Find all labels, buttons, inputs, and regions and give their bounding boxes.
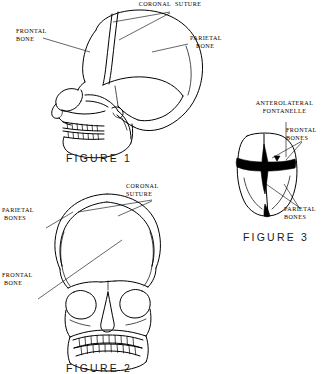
figure-2-label-coronal-suture: CORONAL SUTURE bbox=[126, 183, 182, 198]
figure-3-label-anterolateral-fontanelle: ANTEROLATERAL FONTANELLE bbox=[242, 100, 327, 115]
figure-3-label-frontal-bones: FRONTAL BONES bbox=[286, 127, 327, 142]
figure-1-label-frontal-bone: FRONTAL BONE bbox=[16, 28, 66, 43]
figure-3-caption: FIGURE 3 bbox=[243, 231, 309, 243]
figure-1-label-parietal-bone: PARIETAL BONE bbox=[190, 35, 246, 50]
figure-2-caption: FIGURE 2 bbox=[66, 362, 132, 374]
figure-2-label-frontal-bone: FRONTAL BONE bbox=[2, 272, 54, 287]
figure-1-label-coronal-suture: CORONAL SUTURE bbox=[122, 1, 218, 9]
figure-3-label-parietal-bones: PARIETAL BONES bbox=[284, 206, 327, 221]
figure-2-label-parietal-bones: PARIETAL BONES bbox=[2, 207, 54, 222]
figure-1-caption: FIGURE 1 bbox=[66, 152, 132, 164]
figure-1-leaders bbox=[0, 0, 230, 160]
